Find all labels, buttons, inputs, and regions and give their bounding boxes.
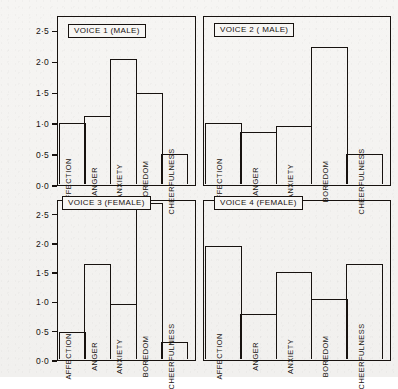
bar-voice-2-anger: ANGER	[240, 132, 277, 184]
bar-group-voice-2: AFFECTIONANGERANXIETYBOREDOMCHEERFULNESS	[205, 16, 390, 184]
y-axis-tick-label: 0·5	[9, 327, 49, 337]
bar-voice-2-anxiety: ANXIETY	[276, 126, 313, 184]
bar-category-label: ANGER	[90, 342, 97, 371]
bar-category-label: BOREDOM	[322, 336, 329, 378]
panel-title-voice-2: VOICE 2 ( MALE)	[214, 23, 294, 37]
bar-category-label: ANXIETY	[287, 164, 294, 199]
y-axis-tick-label: 0·5	[9, 150, 49, 160]
y-axis-tick-label: 2·0	[9, 239, 49, 249]
y-axis-tick-label: 2·0	[9, 57, 49, 67]
bar-voice-1-cheerfulness: CHEERFULNESS	[161, 154, 188, 185]
panel-title-voice-1: VOICE 1 (MALE)	[68, 24, 146, 38]
y-axis-tick-label: 2·5	[9, 26, 49, 36]
bar-voice-2-boredom: BOREDOM	[311, 47, 348, 185]
bar-voice-2-affection: AFFECTION	[205, 123, 242, 184]
y-axis-tick	[52, 302, 57, 304]
bar-voice-4-cheerfulness: CHEERFULNESS	[346, 264, 383, 360]
bar-category-label: ANXIETY	[116, 339, 123, 374]
bar-voice-3-cheerfulness: CHEERFULNESS	[161, 342, 188, 359]
bar-voice-3-anxiety: ANXIETY	[110, 304, 137, 359]
y-axis-tick	[52, 62, 57, 64]
y-axis-tick-label: 2·5	[9, 210, 49, 220]
bar-voice-3-affection: AFFECTION	[59, 332, 86, 360]
bar-category-label: AFFECTION	[65, 333, 72, 379]
bar-voice-4-anxiety: ANXIETY	[276, 272, 313, 359]
y-axis-tick-label: 1·5	[9, 268, 49, 278]
y-axis-tick	[52, 243, 57, 245]
bar-category-label: CHEERFULNESS	[357, 323, 364, 389]
bar-category-label: AFFECTION	[216, 333, 223, 379]
bar-voice-1-affection: AFFECTION	[59, 123, 86, 184]
y-axis-tick-label: 0·0	[9, 181, 49, 191]
bar-category-label: ANXIETY	[287, 339, 294, 374]
bar-voice-4-boredom: BOREDOM	[311, 299, 348, 360]
y-axis-tick	[52, 123, 57, 125]
y-axis-tick-label: 1·0	[9, 297, 49, 307]
y-axis-tick-label: 1·5	[9, 88, 49, 98]
y-axis-tick	[52, 154, 57, 156]
y-axis-tick	[52, 31, 57, 33]
bar-group-voice-3: AFFECTIONANGERANXIETYBOREDOMCHEERFULNESS	[59, 200, 195, 359]
panel-title-voice-3: VOICE 3 (FEMALE)	[62, 196, 151, 210]
bar-voice-1-anger: ANGER	[84, 116, 111, 185]
bar-voice-4-anger: ANGER	[240, 314, 277, 359]
y-axis-tick	[52, 214, 57, 216]
y-axis-tick	[52, 185, 57, 187]
bar-category-label: ANGER	[251, 167, 258, 196]
bar-group-voice-1: AFFECTIONANGERANXIETYBOREDOMCHEERFULNESS	[59, 16, 195, 184]
bar-category-label: BOREDOM	[322, 161, 329, 203]
y-axis-tick	[52, 360, 57, 362]
bar-voice-3-boredom: BOREDOM	[136, 203, 163, 360]
bar-category-label: ANGER	[251, 342, 258, 371]
bar-voice-4-affection: AFFECTION	[205, 246, 242, 359]
panel-title-voice-4: VOICE 4 (FEMALE)	[214, 196, 303, 210]
bar-category-label: CHEERFULNESS	[167, 323, 174, 389]
bar-voice-2-cheerfulness: CHEERFULNESS	[346, 154, 383, 185]
y-axis-tick	[52, 93, 57, 95]
y-axis-tick-label: 0·0	[9, 356, 49, 366]
bar-voice-1-anxiety: ANXIETY	[110, 59, 137, 185]
y-axis-tick-label: 1·0	[9, 119, 49, 129]
y-axis-tick	[52, 331, 57, 333]
bar-category-label: ANXIETY	[116, 164, 123, 199]
y-axis-tick	[52, 272, 57, 274]
bar-category-label: BOREDOM	[142, 336, 149, 378]
bar-voice-1-boredom: BOREDOM	[136, 93, 163, 185]
bar-voice-3-anger: ANGER	[84, 264, 111, 360]
bar-category-label: ANGER	[90, 167, 97, 196]
bar-group-voice-4: AFFECTIONANGERANXIETYBOREDOMCHEERFULNESS	[205, 200, 390, 359]
